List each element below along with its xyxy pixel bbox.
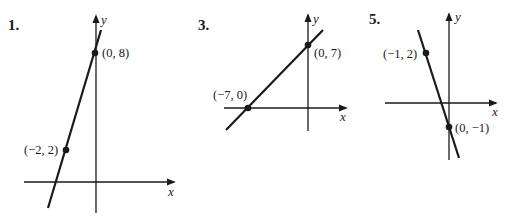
graphs-figure: 1. y x (0, 8) (−2, 2) 3. y x (0, 7) (−7,… [0,0,532,220]
y-axis-label: y [99,12,107,27]
graph-3: 3. y x (0, 7) (−7, 0) [198,11,346,131]
point-marker [245,105,252,112]
x-axis-label: x [491,104,498,119]
x-axis-label: x [167,184,174,199]
problem-number: 5. [369,11,381,27]
point-label: (0, 7) [314,46,341,60]
point-marker [92,50,99,57]
point-label: (0, −1) [455,121,489,135]
point-label: (−1, 2) [383,47,417,61]
y-axis-label: y [453,9,461,24]
point-marker [446,124,453,131]
graph-5: 5. y x (−1, 2) (0, −1) [369,9,498,160]
problem-number: 3. [198,17,210,33]
x-axis-label: x [339,109,346,124]
point-marker [63,147,70,154]
y-axis-label: y [311,11,319,26]
point-label: (−2, 2) [24,143,58,157]
point-marker [423,50,430,57]
point-label: (0, 8) [102,46,129,60]
graph-line [48,30,101,208]
point-marker [305,42,312,49]
point-label: (−7, 0) [213,88,247,102]
graph-1: 1. y x (0, 8) (−2, 2) [8,12,174,213]
problem-number: 1. [8,17,20,33]
graph-line [418,30,459,158]
